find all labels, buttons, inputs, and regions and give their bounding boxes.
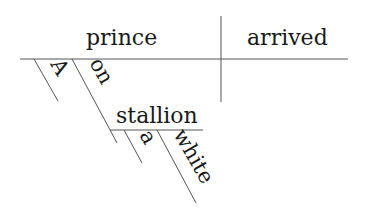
modifier-word-a: a	[135, 126, 162, 149]
predicate-word: arrived	[247, 25, 328, 50]
modifier-word-white: white	[169, 125, 219, 188]
subject-word: prince	[86, 25, 157, 50]
sentence-diagram: prince arrived A on stallion a white	[0, 0, 366, 213]
modifier-word-A: A	[45, 54, 74, 81]
object-word: stallion	[116, 103, 198, 128]
